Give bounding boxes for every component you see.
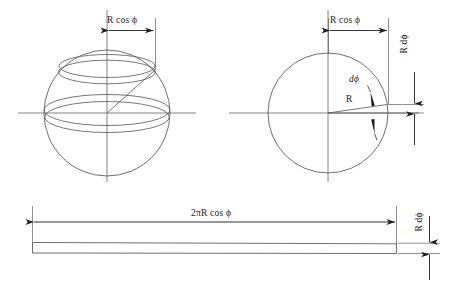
angle-label-dphi: dϕ [349, 75, 359, 85]
diagram-svg [0, 0, 452, 286]
strip-rectangle [33, 243, 397, 254]
strip-height-label-rdphi: R dϕ [415, 212, 425, 231]
left-dimension-label-rcosphi: R cos ϕ [107, 16, 137, 26]
right-dimension-label-rdphi: R dϕ [400, 34, 410, 53]
bottom-strip-panel [33, 206, 441, 280]
left-sphere-panel [18, 10, 196, 182]
strip-length-label: 2πR cos ϕ [191, 209, 231, 219]
radius-label-r: R [346, 95, 353, 105]
radius-line-to-band [107, 70, 155, 113]
angle-arrow-upper [371, 92, 375, 106]
angle-arrow-lower-tail [375, 134, 378, 141]
angle-arrow-lower [371, 119, 374, 134]
figure-canvas: R cos ϕ R cos ϕ R dϕ dϕ R 2πR cos ϕ R dϕ [0, 0, 452, 286]
angle-arrow-upper-tail [368, 86, 371, 93]
right-dimension-label-rcosphi: R cos ϕ [330, 16, 360, 26]
radius-line-tilted [328, 105, 387, 114]
right-circle-panel [229, 10, 424, 182]
